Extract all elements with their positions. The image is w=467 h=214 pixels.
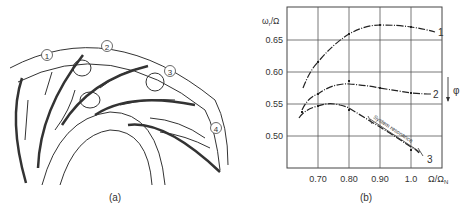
- flow-arrow: [25, 100, 28, 140]
- curve-1: [303, 25, 435, 88]
- caption-b: (b): [360, 192, 372, 203]
- phi-arrow-icon: [446, 77, 450, 102]
- blade-5: [128, 125, 220, 172]
- station-label-3: 3: [168, 68, 173, 77]
- eddy-1: [73, 60, 91, 76]
- curve-2: [302, 84, 432, 110]
- curve-label-2: 2: [433, 89, 439, 100]
- chart: 0.65 0.60 0.55 0.50 ωr/Ω 0.70 0.80 0.90 …: [262, 7, 460, 203]
- y-tick-0.60: 0.60: [265, 67, 283, 77]
- y-tick-0.55: 0.55: [265, 99, 283, 109]
- caption-a: (a): [109, 192, 121, 203]
- station-label-1: 1: [45, 52, 50, 61]
- y-gridlines: [287, 40, 442, 136]
- x-axis-label: Ω/ΩN: [428, 174, 448, 185]
- flow-arrow: [45, 72, 52, 95]
- curve-label-1: 1: [438, 27, 444, 38]
- x-tick-0.80: 0.80: [340, 174, 358, 184]
- inner-hub-arc: [60, 130, 152, 185]
- blade-4: [95, 100, 195, 115]
- impeller-diagram: [10, 48, 228, 185]
- curves: [299, 25, 435, 153]
- system-resonance-label: System resonance: [372, 114, 413, 144]
- station-label-4: 4: [214, 125, 219, 134]
- figure: 1 2 3 4 (a) 0.65 0.60 0.55 0.50 ωr/: [0, 0, 467, 214]
- phi-label: φ: [453, 85, 460, 96]
- x-tick-1.0: 1.0: [405, 174, 418, 184]
- curve-3: [299, 104, 419, 153]
- outer-casing-arc: [10, 48, 228, 165]
- x-tick-0.70: 0.70: [309, 174, 327, 184]
- y-axis-label: ωr/Ω: [262, 16, 279, 27]
- blade-1: [16, 78, 26, 183]
- plot-frame: [287, 7, 442, 168]
- y-tick-0.50: 0.50: [265, 131, 283, 141]
- x-gridlines: [318, 7, 411, 168]
- station-label-2: 2: [105, 43, 110, 52]
- blade-3: [62, 66, 148, 125]
- y-tick-0.65: 0.65: [265, 35, 283, 45]
- x-tick-0.90: 0.90: [371, 174, 389, 184]
- curve-label-3: 3: [427, 154, 433, 165]
